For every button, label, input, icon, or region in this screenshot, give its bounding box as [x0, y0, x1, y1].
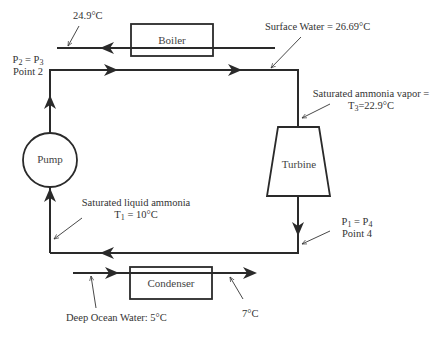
flow-arrows	[44, 42, 304, 279]
sat-vapor-label: Saturated ammonia vapor = T3=22.9°C	[310, 88, 432, 112]
boiler-outlet-temp: 24.9°C	[73, 10, 103, 22]
turbine-label: Turbine	[268, 158, 330, 170]
pointer-sat-liquid	[54, 218, 82, 239]
condenser-label: Condenser	[130, 277, 212, 289]
surface-water-label: Surface Water = 26.69°C	[265, 21, 370, 33]
pointer-condenser-outlet	[230, 277, 243, 299]
sat-liquid-label: Saturated liquid ammonia T1 = 10°C	[67, 197, 205, 221]
point4-label: P1 = P4 Point 4	[335, 216, 379, 240]
pointer-surface-water	[271, 37, 301, 68]
loop-upper	[50, 70, 298, 253]
deep-ocean-water-label: Deep Ocean Water: 5°C	[66, 312, 167, 324]
pump-label: Pump	[23, 153, 77, 165]
pointer-boiler-outlet	[68, 26, 79, 46]
condenser-outlet-temp: 7°C	[242, 308, 258, 320]
pointer-deep-water	[91, 276, 96, 308]
point2-label: P2 = P3 Point 2	[8, 54, 48, 78]
boiler-label: Boiler	[131, 34, 213, 46]
pointer-point4	[302, 231, 330, 244]
cycle-diagram	[0, 0, 435, 339]
